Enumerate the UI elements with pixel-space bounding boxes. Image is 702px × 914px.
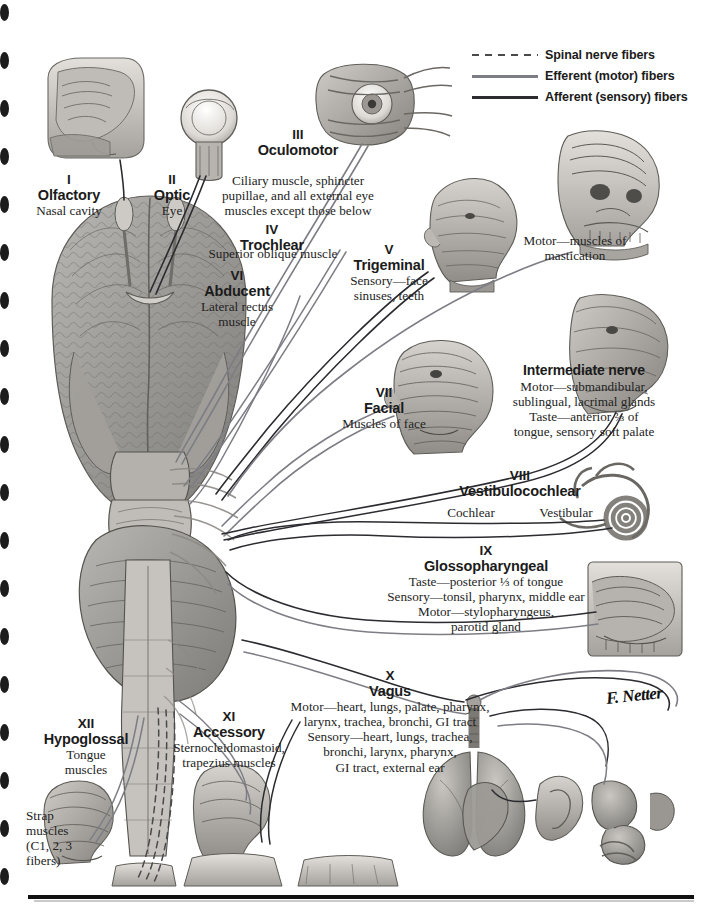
label-cn3-oculomotor: III Oculomotor — [198, 127, 398, 158]
label-cn10-vagus: X Vagus Motor—heart, lungs, palate, phar… — [274, 668, 506, 775]
solid-line-icon — [472, 70, 538, 82]
cn1-name: Olfactory — [8, 187, 130, 203]
label-cn5-trigeminal: V Trigeminal Sensory—face sinuses, teeth — [330, 242, 448, 303]
cn6-name: Abducent — [176, 283, 298, 299]
page-bottom-rule-shadow — [34, 900, 694, 902]
legend-item-afferent: Afferent (sensory) fibers — [472, 86, 694, 107]
cn10-numeral: X — [274, 668, 506, 683]
legend-item-efferent: Efferent (motor) fibers — [472, 65, 694, 86]
legend-item-spinal: Spinal nerve fibers — [472, 44, 694, 65]
page-bottom-rule — [28, 895, 694, 899]
label-cn12-hypoglossal: XII Hypoglossal Tongue muscles — [34, 716, 138, 777]
cn11-name: Accessory — [154, 724, 304, 740]
cn11-numeral: XI — [154, 709, 304, 724]
legend-label-efferent: Efferent (motor) fibers — [545, 69, 675, 83]
label-cn8-vestibulocochlear: VIII Vestibulocochlear — [420, 468, 620, 499]
cn9-numeral: IX — [368, 543, 604, 558]
cn8-branch-vestibular: Vestibular — [524, 505, 608, 520]
cn5-description-sensory: Sensory—face sinuses, teeth — [330, 273, 448, 303]
cn7-description: Muscles of face — [330, 416, 438, 431]
label-intermediate-nerve: Intermediate nerve Motor—submandibular, … — [484, 363, 684, 439]
cn5-name: Trigeminal — [330, 257, 448, 273]
label-cn6-abducent: VI Abducent Lateral rectus muscle — [176, 268, 298, 329]
cn8-numeral: VIII — [420, 468, 620, 483]
cn12-name: Hypoglossal — [34, 731, 138, 747]
cn6-description: Lateral rectus muscle — [176, 299, 298, 329]
label-cn1-olfactory: I Olfactory Nasal cavity — [8, 172, 130, 218]
intermediate-nerve-description: Motor—submandibular, sublingual, lacrima… — [484, 379, 684, 439]
annotation-strap-muscles: Strap muscles (C1, 2, 3 fibers) — [26, 808, 102, 868]
cn7-numeral: VII — [330, 385, 438, 400]
cn5-description-motor: Motor—muscles of mastication — [500, 233, 650, 263]
cn8-name: Vestibulocochlear — [420, 483, 620, 499]
cn1-description: Nasal cavity — [8, 203, 130, 218]
cn12-description: Tongue muscles — [34, 747, 138, 777]
cn5-numeral: V — [330, 242, 448, 257]
cn4-numeral: IV — [198, 222, 346, 237]
intermediate-nerve-name: Intermediate nerve — [484, 363, 684, 379]
cn10-description: Motor—heart, lungs, palate, pharynx, lar… — [274, 699, 506, 774]
cn12-numeral: XII — [34, 716, 138, 731]
legend-label-spinal: Spinal nerve fibers — [545, 48, 655, 62]
legend-label-afferent: Afferent (sensory) fibers — [545, 90, 688, 104]
dashed-line-icon — [472, 49, 538, 61]
cn11-description: Sternocleidomastoid, trapezius muscles — [154, 740, 304, 770]
cn9-description: Taste—posterior ⅓ of tongue Sensory—tons… — [368, 574, 604, 634]
cn3-numeral: III — [198, 127, 398, 142]
cn7-name: Facial — [330, 400, 438, 416]
label-cn9-glossopharyngeal: IX Glossopharyngeal Taste—posterior ⅓ of… — [368, 543, 604, 635]
cn9-name: Glossopharyngeal — [368, 558, 604, 574]
legend: Spinal nerve fibers Efferent (motor) fib… — [472, 44, 694, 107]
label-cn7-facial: VII Facial Muscles of face — [330, 385, 438, 431]
cn3-name: Oculomotor — [198, 142, 398, 158]
cn1-numeral: I — [8, 172, 130, 187]
plate-page: Spinal nerve fibers Efferent (motor) fib… — [0, 0, 702, 914]
cn6-numeral: VI — [176, 268, 298, 283]
solid-line-icon — [472, 91, 538, 103]
cn3-description: Ciliary muscle, sphincter pupillae, and … — [186, 173, 410, 218]
cn8-branch-cochlear: Cochlear — [432, 505, 510, 520]
label-cn11-accessory: XI Accessory Sternocleidomastoid, trapez… — [154, 709, 304, 770]
cn10-name: Vagus — [274, 683, 506, 699]
